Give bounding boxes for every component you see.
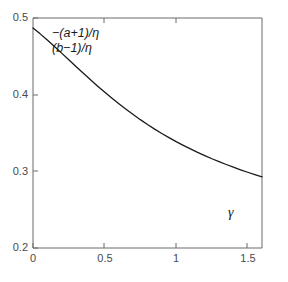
chart-figure: 0.5 0.4 0.3 0.2 0 0.5 1 1.5 −(a+1)/η (b−… <box>0 0 288 282</box>
curve-annotation-line-2: (b−1)/η <box>52 41 92 55</box>
x-axis-tick-label: 0.5 <box>95 253 115 264</box>
y-axis-tick-label: 0.5 <box>2 12 28 23</box>
x-axis-label: γ <box>228 206 234 220</box>
x-axis-tick-label: 0 <box>23 253 43 264</box>
plot-canvas <box>0 0 288 282</box>
y-axis-tick-label: 0.4 <box>2 89 28 100</box>
x-axis-tick-label: 1.5 <box>238 253 258 264</box>
curve-annotation-line-1: −(a+1)/η <box>52 26 99 40</box>
y-axis-tick-label: 0.3 <box>2 166 28 177</box>
y-axis-ticks <box>33 18 38 248</box>
y-axis-tick-label: 0.2 <box>2 242 28 253</box>
x-axis-tick-label: 1 <box>166 253 186 264</box>
